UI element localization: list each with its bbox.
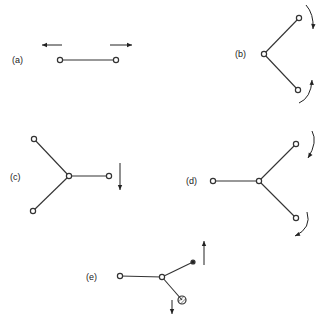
arrowhead-icon: [170, 309, 174, 314]
arrowhead-icon: [202, 241, 206, 246]
arrowhead-icon: [310, 80, 314, 85]
panel-label: (c): [10, 172, 21, 182]
panel-label: (b): [235, 49, 246, 59]
bond-line: [264, 54, 298, 90]
panel-d: (d): [186, 131, 314, 236]
atom-node: [57, 57, 62, 62]
panel-label: (d): [186, 176, 197, 186]
atom-node: [295, 87, 300, 92]
bond-line: [120, 276, 162, 277]
atom-node-large: [178, 296, 186, 304]
arrowhead-icon: [127, 43, 132, 47]
panel-e: (e): [86, 241, 206, 314]
atom-node: [296, 15, 301, 20]
arrowhead-icon: [42, 43, 47, 47]
arrowhead-icon: [311, 24, 315, 29]
atom-node: [31, 136, 36, 141]
bond-line: [264, 18, 299, 54]
panel-c: (c): [10, 136, 122, 213]
bond-line: [33, 176, 69, 211]
atom-node: [159, 274, 164, 279]
bond-line: [34, 139, 69, 176]
atom-node: [117, 273, 122, 278]
vibrational-modes-diagram: (a)(b)(c)(d)(e): [0, 0, 318, 316]
atom-node: [210, 178, 215, 183]
panel-a: (a): [12, 43, 132, 65]
arrowhead-icon: [118, 185, 122, 190]
panel-label: (e): [86, 272, 97, 282]
atom-node: [113, 57, 118, 62]
atom-node: [293, 215, 298, 220]
panel-label: (a): [12, 55, 23, 65]
bond-line: [259, 144, 296, 181]
bond-line: [162, 262, 193, 277]
atom-node: [66, 173, 71, 178]
atom-node: [30, 208, 35, 213]
atom-node: [293, 141, 298, 146]
bond-line: [259, 181, 296, 218]
atom-node-small: [191, 260, 195, 264]
curved-motion-arrow: [299, 80, 312, 103]
panel-b: (b): [235, 5, 316, 103]
atom-node: [106, 173, 111, 178]
atom-node: [256, 178, 261, 183]
atom-node: [261, 51, 266, 56]
